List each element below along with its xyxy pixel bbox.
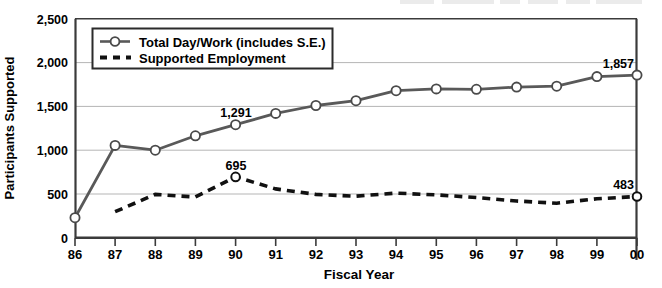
series-total-day-work-point-87 [111, 141, 120, 150]
x-tick-label-96: 96 [469, 247, 483, 262]
y-tick-label-1500: 1,500 [37, 100, 68, 114]
data-label-se-483: 483 [613, 178, 634, 192]
line-chart-svg: 2,500 2,000 1,500 1,000 500 0 86 87 88 8… [0, 0, 662, 288]
x-tick-label-98: 98 [549, 247, 563, 262]
x-tick-label-87: 87 [108, 247, 122, 262]
x-tick-label-00: 00 [630, 247, 644, 262]
data-label-total-1291: 1,291 [220, 106, 251, 120]
y-tick-label-0: 0 [61, 232, 68, 246]
x-tick-label-90: 90 [228, 247, 242, 262]
series-total-day-work-point-96 [472, 85, 481, 94]
data-label-total-1857: 1,857 [603, 57, 634, 71]
series-total-day-work-point-97 [512, 83, 521, 92]
x-tick-label-97: 97 [509, 247, 523, 262]
x-tick-label-99: 99 [590, 247, 604, 262]
series-supported-employment-point-00 [633, 192, 642, 201]
chart-legend[interactable]: Total Day/Work (includes S.E.) Supported… [93, 29, 333, 69]
series-total-day-work-point-90 [231, 120, 240, 129]
series-total-day-work-point-98 [552, 82, 561, 91]
series-total-day-work-point-00 [632, 71, 641, 80]
series-total-day-work-point-88 [151, 146, 160, 155]
y-tick-label-500: 500 [47, 188, 68, 202]
series-total-day-work-point-99 [592, 72, 601, 81]
series-total-day-work-point-91 [271, 109, 280, 118]
chart-container: 2,500 2,000 1,500 1,000 500 0 86 87 88 8… [0, 0, 662, 288]
series-total-day-work-point-92 [311, 101, 320, 110]
series-total-day-work-point-94 [392, 86, 401, 95]
series-total-day-work-point-95 [432, 84, 441, 93]
x-tick-label-93: 93 [349, 247, 363, 262]
x-tick-label-94: 94 [389, 247, 404, 262]
y-tick-label-2000: 2,000 [37, 56, 68, 70]
x-tick-label-89: 89 [188, 247, 202, 262]
legend-label-total-day-work: Total Day/Work (includes S.E.) [139, 35, 326, 50]
series-total-day-work-point-93 [351, 96, 360, 105]
y-tick-label-2500: 2,500 [37, 13, 68, 27]
x-tick-labels: 86 87 88 89 90 91 92 93 94 95 96 97 98 9… [68, 247, 644, 262]
x-tick-label-86: 86 [68, 247, 82, 262]
x-tick-label-92: 92 [309, 247, 323, 262]
legend-label-supported-employment: Supported Employment [139, 51, 286, 66]
data-label-se-695: 695 [226, 159, 247, 173]
x-tick-label-95: 95 [429, 247, 443, 262]
series-total-day-work-point-89 [191, 131, 200, 140]
y-axis-title: Participants Supported [2, 56, 17, 199]
y-tick-label-1000: 1,000 [37, 144, 68, 158]
x-axis-title: Fiscal Year [324, 267, 395, 282]
series-supported-employment-point-90 [231, 173, 240, 182]
x-tick-label-91: 91 [268, 247, 282, 262]
series-total-day-work-point-86 [70, 213, 79, 222]
legend-circle-marker-icon [111, 37, 120, 46]
x-tick-label-88: 88 [148, 247, 162, 262]
